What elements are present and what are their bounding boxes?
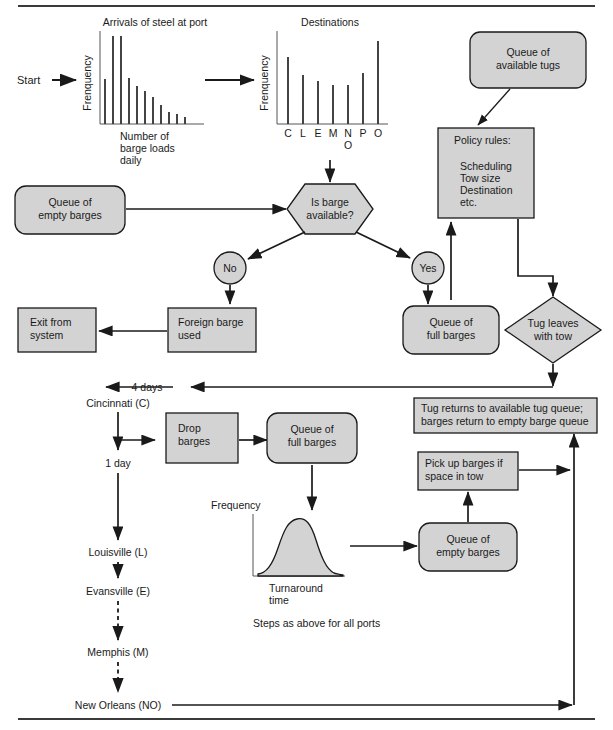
one-day-label: 1 day [105,457,131,469]
chart2-title: Destinations [301,16,359,28]
chart1-xlabel-line2: barge loads [120,142,175,154]
policy-rules-title: Policy rules: [454,134,511,146]
svg-text:M: M [329,127,338,139]
is-barge-available-line1: Is barge [311,196,349,208]
flowchart-diagram: Start Arrivals of steel at port Frenquen… [0,0,613,730]
queue-full-barges2-line1: Queue of [290,423,333,435]
yes-label: Yes [419,262,436,274]
turnaround-xlabel-line1: Turnaround [269,582,323,594]
queue-full-barges2-line2: full barges [288,436,336,448]
exit-system-line1: Exit from [30,316,72,328]
queue-empty-barges-line1: Queue of [48,196,91,208]
tug-returns-line1: Tug returns to available tug queue; [421,402,583,414]
chart1-xlabel-line1: Number of [120,130,169,142]
svg-text:N: N [344,127,352,139]
is-barge-available-line2: available? [306,209,353,221]
city-evansville-label: Evansville (E) [86,585,150,597]
policy-to-tug-leaves-arrow [518,219,553,296]
queue-empty-barges-line2: empty barges [38,209,102,221]
tug-leaves-line2: with tow [533,330,572,342]
svg-text:L: L [300,127,306,139]
exit-system-line2: system [30,329,64,341]
svg-text:O: O [374,127,382,139]
policy-rule-1: Scheduling [460,160,512,172]
foreign-barge-line2: used [178,329,201,341]
start-label: Start [17,74,40,86]
turnaround-distribution-curve [258,519,343,576]
decision-to-yes-arrow [356,232,410,258]
city-louisville-label: Louisville (L) [89,546,148,558]
turnaround-ylabel: Frequency [211,499,261,511]
pick-up-barges-line1: Pick up barges if [425,457,503,469]
tugs-to-policy-arrow [478,89,510,125]
queue-empty-barges2-line1: Queue of [446,533,489,545]
tug-returns-line2: barges return to empty barge queue [421,415,589,427]
policy-rule-2: Tow size [460,172,500,184]
chart2-ylabel: Frenquency [258,55,270,111]
figure-canvas: Start Arrivals of steel at port Frenquen… [0,0,613,730]
drop-barges-line2: barges [178,435,210,447]
pick-up-barges-line2: space in tow [425,470,484,482]
chart2-bars [288,41,378,124]
turnaround-xlabel-line2: time [269,594,289,606]
city-cincinnati-label: Cincinnati (C) [86,397,150,409]
policy-rule-3: Destination [460,184,513,196]
decision-to-no-arrow [248,232,305,259]
svg-text:O: O [344,139,352,151]
queue-full-barges-line2: full barges [427,329,475,341]
chart1-title: Arrivals of steel at port [103,16,208,28]
svg-text:E: E [314,127,321,139]
no-label: No [223,262,237,274]
queue-available-tugs-line2: available tugs [496,59,560,71]
chart1-bars [105,36,185,124]
svg-text:C: C [284,127,292,139]
chart1-ylabel: Frenquency [81,55,93,111]
policy-rule-4: etc. [460,196,477,208]
drop-barges-line1: Drop [178,422,201,434]
city-new-orleans-label: New Orleans (NO) [75,699,161,711]
foreign-barge-line1: Foreign barge [178,316,244,328]
steps-note: Steps as above for all ports [253,617,380,629]
chart2-ticklabels: C L E M N O P O [284,127,382,151]
queue-available-tugs-line1: Queue of [506,46,549,58]
city-memphis-label: Memphis (M) [87,646,148,658]
queue-full-barges-line1: Queue of [429,316,472,328]
tug-leaves-line1: Tug leaves [528,317,579,329]
queue-empty-barges2-line2: empty barges [436,546,500,558]
chart1-xlabel-line3: daily [120,154,142,166]
svg-text:P: P [359,127,366,139]
